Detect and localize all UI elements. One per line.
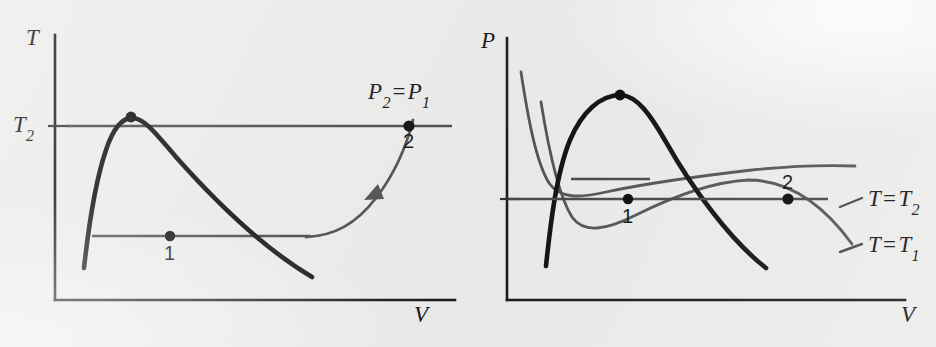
left-process-curve — [306, 120, 413, 237]
right-isotherm-t1-label: T=T1 — [868, 233, 919, 261]
p1-subscript: 1 — [422, 94, 430, 111]
right-critical-point-dot — [615, 90, 626, 101]
p1-base: P — [408, 79, 422, 104]
right-x-axis-label: V — [901, 303, 915, 326]
t2-base: T — [13, 112, 26, 137]
iso2-equals-sign: = — [881, 186, 899, 211]
iso1-t1-base: T — [898, 232, 911, 257]
left-state-1-dot — [165, 231, 175, 241]
left-y-tick-label-t2: T2 — [13, 113, 34, 141]
right-isotherm-t2-label: T=T2 — [868, 187, 919, 215]
p2-subscript: 2 — [382, 94, 390, 111]
right-panel-group — [500, 38, 905, 300]
right-state-2-label: 2 — [782, 172, 793, 192]
iso1-equals-sign: = — [881, 232, 899, 257]
process-arrowhead-icon — [364, 184, 384, 200]
right-leader-t1 — [840, 244, 862, 252]
iso1-t1-subscript: 1 — [911, 247, 919, 264]
right-isotherm-t1 — [541, 102, 852, 244]
iso2-t2-subscript: 2 — [911, 201, 919, 218]
iso2-t2-base: T — [898, 186, 911, 211]
right-y-axis-label: P — [481, 29, 495, 52]
right-state-2-dot — [782, 193, 793, 204]
left-state-1-label: 1 — [164, 243, 175, 263]
left-state-2-label: 2 — [403, 131, 414, 151]
thermodynamic-pv-tv-figure: T V T2 P2=P1 1 2 P V T=T2 T=T1 1 2 — [0, 0, 936, 347]
left-process-pressure-label: P2=P1 — [368, 80, 430, 108]
equals-sign: = — [390, 79, 408, 104]
left-x-axis-label: V — [414, 303, 428, 326]
right-leader-t2 — [840, 198, 862, 207]
figure-canvas — [0, 0, 936, 347]
left-vapor-dome — [84, 118, 312, 277]
left-y-axis-label: T — [26, 26, 39, 49]
left-critical-point-dot — [126, 112, 137, 123]
iso1-t: T — [868, 232, 881, 257]
iso2-t: T — [868, 186, 881, 211]
right-state-1-label: 1 — [622, 206, 633, 226]
right-state-1-dot — [623, 194, 633, 204]
p2-base: P — [368, 79, 382, 104]
t2-subscript: 2 — [26, 127, 34, 144]
left-panel-group — [48, 35, 455, 300]
